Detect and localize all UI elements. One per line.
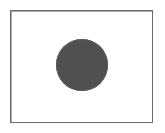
figure-canvas xyxy=(0,0,165,133)
diagram-frame xyxy=(10,10,153,123)
filled-circle-shape xyxy=(56,39,108,91)
